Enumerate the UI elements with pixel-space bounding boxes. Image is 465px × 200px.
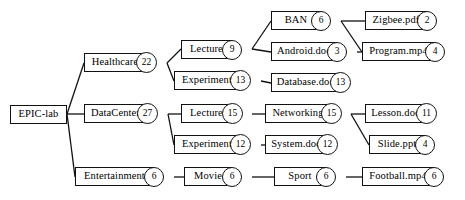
node-label-movie: Movie xyxy=(194,171,222,182)
node-label-networking: Networking xyxy=(272,108,323,119)
edge-epic-lab-to-healthcare xyxy=(67,63,84,114)
node-label-system-doc: System.doc xyxy=(271,139,321,150)
node-label-healthcare: Healthcare xyxy=(92,57,138,68)
count-badge-android-doc: 3 xyxy=(327,42,347,62)
count-badge-value-experiment-h: 13 xyxy=(236,76,246,86)
count-badge-value-lecture-h: 9 xyxy=(230,45,235,55)
node-label-slide-ppt: Slide.ppt xyxy=(378,139,417,150)
count-badge-value-database-doc: 13 xyxy=(336,78,346,88)
node-label-entertainment: Entertainment xyxy=(84,171,145,182)
count-badge-value-sport: 6 xyxy=(324,172,329,182)
edge-healthcare-to-experiment-h xyxy=(167,63,174,81)
node-label-epic-lab: EPIC-lab xyxy=(19,109,59,120)
node-label-experiment-d: Experiment xyxy=(182,139,232,150)
edge-lecture-h-to-android-doc xyxy=(252,49,271,52)
count-badge-value-healthcare: 22 xyxy=(142,58,152,68)
count-badge-datacenter: 27 xyxy=(137,103,158,124)
count-badge-value-slide-ppt: 4 xyxy=(423,140,428,150)
node-label-football-mp4: Football.mp4 xyxy=(369,171,427,182)
count-badge-zigbee-pdf: 2 xyxy=(417,11,437,31)
count-badge-entertainment: 6 xyxy=(144,167,164,187)
count-badge-value-android-doc: 3 xyxy=(335,47,340,57)
count-badge-lecture-h: 9 xyxy=(222,40,242,60)
node-label-zigbee-pdf: Zigbee.pdf xyxy=(373,15,420,26)
count-badge-value-networking: 15 xyxy=(327,109,337,119)
count-badge-program-mp4: 4 xyxy=(425,42,445,62)
node-label-android-doc: Android.doc xyxy=(277,46,331,57)
count-badge-value-datacenter: 27 xyxy=(143,109,153,119)
count-badge-experiment-h: 13 xyxy=(230,70,251,91)
tree-diagram: EPIC-labHealthcare22DataCenter27Entertai… xyxy=(0,0,465,200)
edge-lecture-h-to-ban xyxy=(252,21,271,49)
node-label-lesson-doc: Lesson.doc xyxy=(371,108,420,119)
count-badge-movie: 6 xyxy=(222,167,242,187)
node-label-database-doc: Database.doc xyxy=(277,77,334,88)
edge-healthcare-to-lecture-h xyxy=(167,49,181,63)
node-label-ban: BAN xyxy=(285,15,307,26)
count-badge-system-doc: 12 xyxy=(317,134,338,155)
count-badge-networking: 15 xyxy=(321,103,342,124)
count-badge-value-experiment-d: 12 xyxy=(236,140,246,150)
count-badge-healthcare: 22 xyxy=(136,52,157,73)
node-label-experiment-h: Experiment xyxy=(182,75,232,86)
count-badge-slide-ppt: 4 xyxy=(415,135,435,155)
count-badge-value-lesson-doc: 11 xyxy=(422,109,431,119)
count-badge-database-doc: 13 xyxy=(330,72,351,93)
count-badge-sport: 6 xyxy=(316,167,336,187)
node-epic-lab[interactable]: EPIC-lab xyxy=(10,105,67,124)
edge-experiment-h-to-database-doc xyxy=(261,81,271,83)
node-label-program-mp4: Program.mp4 xyxy=(369,46,428,57)
node-label-lecture-d: Lecture xyxy=(190,108,223,119)
node-label-datacenter: DataCenter xyxy=(91,108,140,119)
count-badge-value-football-mp4: 6 xyxy=(432,172,437,182)
count-badge-value-zigbee-pdf: 2 xyxy=(425,16,430,26)
node-label-lecture-h: Lecture xyxy=(190,44,223,55)
count-badge-value-system-doc: 12 xyxy=(323,140,333,150)
count-badge-ban: 6 xyxy=(311,11,331,31)
count-badge-lesson-doc: 11 xyxy=(416,103,437,124)
count-badge-football-mp4: 6 xyxy=(424,167,444,187)
count-badge-value-program-mp4: 4 xyxy=(433,47,438,57)
count-badge-value-movie: 6 xyxy=(230,172,235,182)
count-badge-experiment-d: 12 xyxy=(230,134,251,155)
node-entertainment[interactable]: Entertainment xyxy=(75,167,154,186)
node-label-sport: Sport xyxy=(288,171,311,182)
count-badge-value-entertainment: 6 xyxy=(152,172,157,182)
edge-epic-lab-to-entertainment xyxy=(67,114,75,177)
count-badge-value-lecture-d: 15 xyxy=(228,109,238,119)
count-badge-value-ban: 6 xyxy=(319,16,324,26)
count-badge-lecture-d: 15 xyxy=(222,103,243,124)
